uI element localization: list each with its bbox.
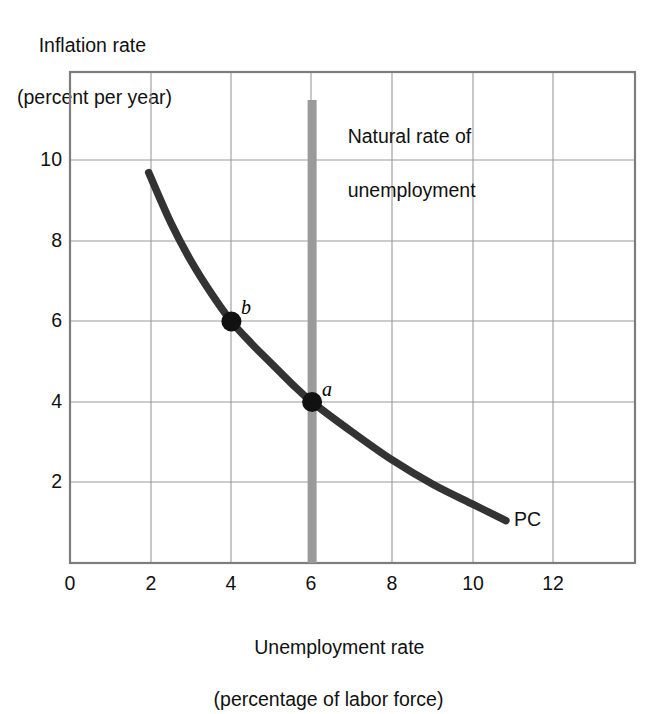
x-tick-label-8: 8: [372, 572, 412, 595]
x-axis-title-line2: (percentage of labor force): [0, 686, 657, 712]
natural-rate-line1: Natural rate of: [348, 125, 472, 147]
x-tick-label-12: 12: [533, 572, 573, 595]
x-tick-label-6: 6: [291, 572, 331, 595]
x-axis-title-line1: Unemployment rate: [254, 636, 424, 658]
data-point-b: [221, 312, 241, 332]
curve-label-pc: PC: [514, 508, 541, 531]
natural-rate-band: [308, 100, 317, 563]
y-tick-label-10: 10: [28, 148, 62, 171]
x-tick-label-0: 0: [50, 572, 90, 595]
y-tick-label-6: 6: [28, 309, 62, 332]
y-tick-label-2: 2: [28, 470, 62, 493]
x-tick-label-2: 2: [131, 572, 171, 595]
data-point-a: [302, 392, 322, 412]
point-label-b: b: [241, 296, 251, 319]
x-axis-title: Unemployment rate (percentage of labor f…: [0, 608, 657, 714]
point-label-a: a: [322, 378, 332, 401]
natural-rate-line2: unemployment: [348, 179, 476, 201]
x-tick-label-10: 10: [453, 572, 493, 595]
x-tick-label-4: 4: [211, 572, 251, 595]
natural-rate-annotation: Natural rate of unemployment: [326, 96, 476, 231]
y-tick-label-4: 4: [28, 390, 62, 413]
y-tick-label-8: 8: [28, 229, 62, 252]
